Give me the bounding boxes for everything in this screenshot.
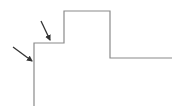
step-waveform-diagram [0,0,179,110]
diagram-canvas [0,0,179,110]
step-waveform-line [34,11,172,106]
arrow-upper-icon [41,21,50,40]
arrow-lower-icon [13,47,32,61]
